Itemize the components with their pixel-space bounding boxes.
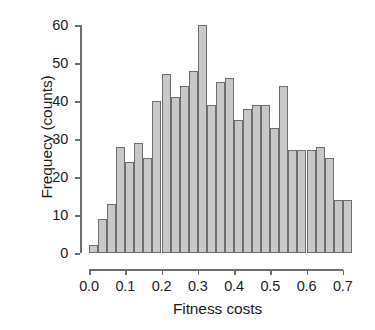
- histogram-bar: [162, 74, 171, 253]
- histogram-bar: [252, 105, 261, 253]
- histogram-bar: [180, 86, 189, 253]
- x-axis-tick-label: 0.5: [253, 279, 287, 293]
- y-axis-label: Frequecy (counts): [34, 2, 60, 272]
- histogram-bar: [107, 204, 116, 253]
- histogram-bar: [288, 150, 297, 253]
- histogram-bar: [279, 86, 288, 253]
- histogram-bar: [234, 120, 243, 253]
- x-axis-tick-label: 0.2: [145, 279, 179, 293]
- histogram-bar: [89, 245, 98, 253]
- histogram-bar: [189, 71, 198, 253]
- histogram-bar: [243, 109, 252, 253]
- histogram-bar: [134, 143, 143, 253]
- y-axis-tick: [75, 215, 80, 217]
- x-axis-tick: [198, 270, 200, 275]
- histogram-bar: [307, 150, 316, 253]
- x-axis-tick-label: 0.1: [108, 279, 142, 293]
- x-axis-line: [89, 269, 343, 271]
- x-axis-tick-label: 0.4: [217, 279, 251, 293]
- histogram-bar: [125, 162, 134, 253]
- y-axis-line: [80, 25, 82, 253]
- histogram-bar: [171, 97, 180, 253]
- x-axis-tick-label: 0.0: [72, 279, 106, 293]
- y-axis-tick: [75, 253, 80, 255]
- x-axis-tick: [89, 270, 91, 275]
- x-axis-tick-label: 0.6: [290, 279, 324, 293]
- histogram-figure: 01020304050600.00.10.20.30.40.50.60.7 Fr…: [0, 0, 375, 330]
- x-axis-tick-label: 0.7: [326, 279, 360, 293]
- y-axis-tick: [75, 177, 80, 179]
- x-axis-tick: [270, 270, 272, 275]
- y-axis-tick: [75, 63, 80, 65]
- histogram-bar: [143, 158, 152, 253]
- y-axis-tick: [75, 25, 80, 27]
- histogram-bar: [325, 158, 334, 253]
- x-axis-label: Fitness costs: [80, 300, 355, 318]
- histogram-bar: [297, 150, 306, 253]
- histogram-bar: [270, 128, 279, 253]
- histogram-bar: [152, 101, 161, 253]
- x-axis-tick: [343, 270, 345, 275]
- histogram-bar: [334, 200, 343, 253]
- histogram-bar: [98, 219, 107, 253]
- histogram-bar: [207, 105, 216, 253]
- histogram-bar: [261, 105, 270, 253]
- histogram-bar: [216, 82, 225, 253]
- histogram-bar: [343, 200, 352, 253]
- histogram-bar: [316, 147, 325, 253]
- histogram-bar: [225, 78, 234, 253]
- histogram-bar: [116, 147, 125, 253]
- x-axis-tick: [162, 270, 164, 275]
- x-axis-tick: [125, 270, 127, 275]
- y-axis-tick: [75, 101, 80, 103]
- x-axis-tick: [307, 270, 309, 275]
- histogram-bar: [198, 25, 207, 253]
- y-axis-tick: [75, 139, 80, 141]
- x-axis-tick-label: 0.3: [181, 279, 215, 293]
- x-axis-tick: [234, 270, 236, 275]
